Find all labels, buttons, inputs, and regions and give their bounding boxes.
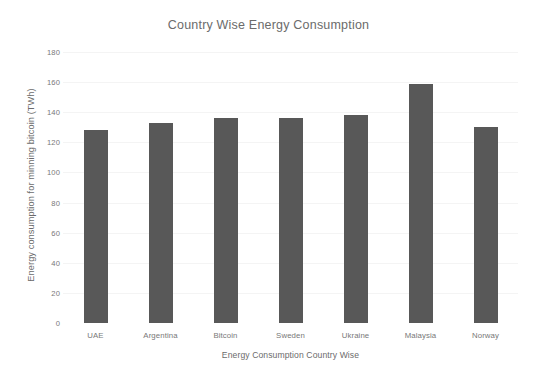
x-axis-tick-label: Sweden <box>276 331 305 340</box>
x-axis-tick-labels: UAEArgentinaBitcoinSwedenUkraineMalaysia… <box>63 331 518 347</box>
chart-title: Country Wise Energy Consumption <box>0 18 537 32</box>
bar <box>474 127 498 323</box>
bar-slot <box>258 52 323 323</box>
y-axis-tick-label: 0 <box>34 319 60 328</box>
y-axis-tick-label: 160 <box>34 78 60 87</box>
y-axis-tick-label: 60 <box>34 228 60 237</box>
x-axis-tick-label: Bitcoin <box>213 331 237 340</box>
bar <box>344 115 368 323</box>
y-axis-tick-label: 180 <box>34 48 60 57</box>
bar-slot <box>323 52 388 323</box>
chart-figure: Country Wise Energy Consumption Energy c… <box>0 0 537 381</box>
y-axis-tick-label: 80 <box>34 198 60 207</box>
bar <box>214 118 238 323</box>
x-axis-tick-label: Norway <box>472 331 499 340</box>
bar-slot <box>453 52 518 323</box>
bar-slot <box>128 52 193 323</box>
x-axis-tick-label: Ukraine <box>342 331 370 340</box>
y-axis-tick-label: 20 <box>34 288 60 297</box>
y-axis-tick-label: 140 <box>34 108 60 117</box>
x-axis-title: Energy Consumption Country Wise <box>63 350 518 360</box>
bar <box>409 84 433 323</box>
bar-slot <box>63 52 128 323</box>
x-axis-tick-label: Malaysia <box>405 331 437 340</box>
y-axis-tick-label: 100 <box>34 168 60 177</box>
bar-slot <box>193 52 258 323</box>
bar <box>149 123 173 323</box>
bar <box>84 130 108 323</box>
x-axis-tick-label: UAE <box>87 331 103 340</box>
x-axis-tick-label: Argentina <box>143 331 177 340</box>
bar-series <box>63 52 518 323</box>
plot-area <box>63 52 518 323</box>
y-axis-tick-label: 120 <box>34 138 60 147</box>
bar-slot <box>388 52 453 323</box>
y-axis-tick-label: 40 <box>34 258 60 267</box>
bar <box>279 118 303 323</box>
y-axis-tick-labels: 020406080100120140160180 <box>32 52 60 323</box>
